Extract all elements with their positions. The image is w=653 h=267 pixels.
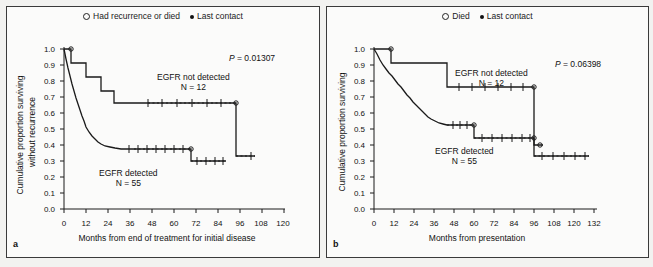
panel-b: DiedLast contact Cumulative proportion s… <box>326 6 649 258</box>
panel-label-b: b <box>333 239 339 249</box>
panel-a: Had recurrence or diedLast contact Cumul… <box>6 6 320 258</box>
plot-area-a <box>7 7 319 257</box>
panel-label-a: a <box>13 239 18 249</box>
figure-container: Had recurrence or diedLast contact Cumul… <box>0 0 653 267</box>
plot-area-b <box>327 7 648 257</box>
